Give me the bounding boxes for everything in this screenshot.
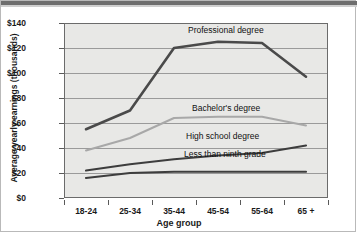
y-axis-tick-mark (59, 198, 64, 199)
x-axis-title: Age group (1, 218, 357, 228)
series-label-bachelors-degree: Bachelor's degree (192, 103, 260, 113)
y-axis-tick-mark (59, 48, 64, 49)
y-axis-tick-label: $80 (0, 93, 26, 103)
y-axis-tick-label: $40 (0, 143, 26, 153)
series-label-less-than-ninth-grade: Less than ninth grade (184, 149, 266, 159)
x-axis-tick-label: 65 + (276, 206, 336, 216)
y-axis-tick-mark (59, 23, 64, 24)
y-axis-tick-mark (59, 173, 64, 174)
y-axis-tick-label: $140 (0, 18, 26, 28)
y-axis-tick-mark (59, 98, 64, 99)
gridline (65, 48, 327, 49)
series-label-high-school-degree: High school degree (186, 131, 259, 141)
y-axis-tick-label: $20 (0, 168, 26, 178)
x-axis-tick-mark (240, 200, 241, 205)
gridline (65, 173, 327, 174)
x-axis-tick-mark (328, 200, 329, 205)
x-axis-tick-mark (284, 200, 285, 205)
y-axis-tick-mark (59, 148, 64, 149)
y-axis-tick-label: $0 (0, 193, 26, 203)
y-axis-tick-mark (59, 73, 64, 74)
x-axis-tick-mark (64, 200, 65, 205)
y-axis-tick-label: $120 (0, 43, 26, 53)
gridline (65, 73, 327, 74)
y-axis-tick-label: $100 (0, 68, 26, 78)
gridline (65, 98, 327, 99)
x-axis-tick-mark (196, 200, 197, 205)
x-axis-tick-mark (108, 200, 109, 205)
y-axis-tick-label: $60 (0, 118, 26, 128)
y-axis-tick-mark (59, 123, 64, 124)
line-chart: Average yearly earnings (thousands) Prof… (1, 7, 357, 233)
x-axis-tick-mark (152, 200, 153, 205)
gridline (65, 123, 327, 124)
series-label-professional-degree: Professional degree (188, 25, 264, 35)
